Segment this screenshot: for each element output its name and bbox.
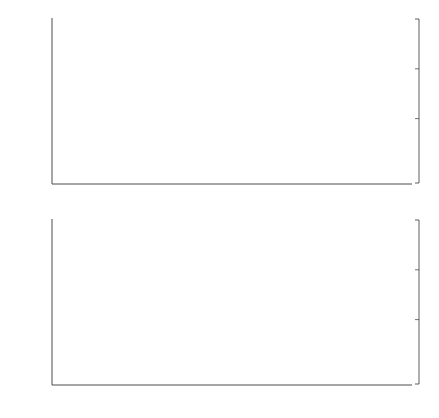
chart-panel-top — [0, 0, 439, 205]
chart-panel-bottom — [0, 205, 439, 403]
figure-caption — [4, 404, 434, 418]
right-bracket-outer-top — [415, 19, 419, 183]
right-category-axis-top — [415, 19, 419, 183]
right-bracket-outer-bottom — [415, 220, 419, 384]
line-chart-bottom — [0, 205, 439, 403]
right-category-axis-bottom — [415, 220, 419, 384]
line-chart-top — [0, 0, 439, 205]
